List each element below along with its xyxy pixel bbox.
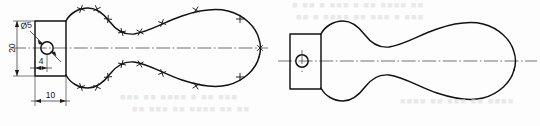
dimension-text-4: 4 — [39, 56, 44, 66]
left-view: 20 Ø5 4 — [7, 6, 268, 106]
left-upper-contour — [66, 8, 261, 57]
arrowhead-up — [15, 21, 19, 27]
arrowhead-left-4 — [35, 66, 41, 70]
right-view — [278, 21, 537, 101]
engineering-drawing-canvas: 20 Ø5 4 — [0, 0, 540, 126]
background-bleed-text: ■■ ■ ■■■■ ■■ ■■■ ■ ■■■ — [296, 12, 424, 22]
background-bleed-text: ■■■ ■■ ■■■■ ■ ■■ ■■■ — [120, 92, 238, 102]
dimension-hole-offset: 4 — [30, 54, 52, 72]
arrowhead-right-4 — [42, 66, 48, 70]
leader-line-lower — [51, 52, 61, 62]
dimension-text-10: 10 — [46, 90, 56, 100]
right-block-rectangle — [290, 34, 321, 89]
drawing-sheet: 20 Ø5 4 — [0, 0, 540, 126]
arrowhead-down — [15, 70, 19, 76]
leader-line-upper — [30, 31, 43, 44]
background-bleed-text: ■■ ■■■ ■■ ■■■■ ■■ ■■ — [132, 104, 250, 114]
arrowhead-right-10 — [60, 99, 66, 103]
dimension-block-width: 10 — [31, 76, 70, 106]
right-upper-contour — [321, 21, 516, 70]
leader-arrowhead — [38, 40, 44, 45]
dimension-text-dia5: Ø5 — [20, 19, 33, 31]
dimension-text-20: 20 — [7, 43, 17, 53]
background-bleed-text: ■■■■ ■■ ■■■ ■■ ■■■■ — [400, 96, 514, 106]
arrowhead-left-10 — [35, 99, 41, 103]
background-bleed-text: ■ ■■ ■ ■■■ ■ ■■ ■■■■ ■■ — [292, 0, 424, 10]
leader-arrowhead-2 — [50, 51, 56, 56]
